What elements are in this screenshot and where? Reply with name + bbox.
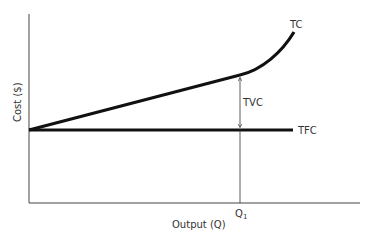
q1-label: Q1 xyxy=(235,208,247,221)
tc-curve xyxy=(29,32,294,130)
tc-label: TC xyxy=(289,19,303,30)
cost-curves-diagram: TC TVC TFC Q1 Output (Q) Cost ($) xyxy=(0,0,372,242)
tvc-label: TVC xyxy=(242,97,263,108)
tfc-label: TFC xyxy=(297,125,317,136)
x-axis-label: Output (Q) xyxy=(172,219,226,230)
y-axis-label: Cost ($) xyxy=(12,82,23,122)
